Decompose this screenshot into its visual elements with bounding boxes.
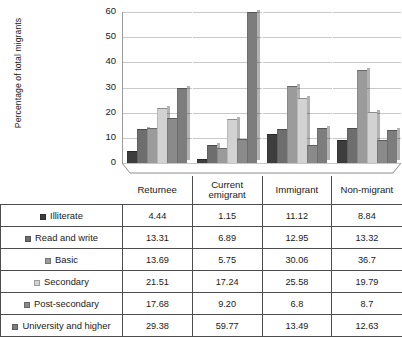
y-tick-label-60: 60 [82, 5, 116, 16]
y-tick-label-20: 20 [82, 106, 116, 117]
bar-chart: Percentage of total migrants 01020304050… [0, 0, 401, 198]
bar-group-current-emigrant [192, 12, 262, 163]
cell-value: 4.44 [123, 205, 193, 227]
legend-row-illiterate: Illiterate [1, 205, 123, 227]
table-row: Basic13.695.7530.0636.7 [1, 249, 402, 271]
cell-value: 12.95 [262, 227, 332, 249]
bar-secondary-current-emigrant [227, 119, 237, 163]
cell-value: 30.06 [262, 249, 332, 271]
bar-university-and-higher-non-migrant [387, 130, 397, 163]
bar-basic-current-emigrant [217, 148, 227, 163]
legend-label: Secondary [44, 276, 89, 287]
bar-secondary-returnee [157, 108, 167, 163]
bar-group-non-migrant [332, 12, 402, 163]
legend-swatch-icon [12, 324, 18, 330]
cell-value: 17.68 [123, 293, 193, 315]
legend-label: Basic [55, 254, 78, 265]
table-row: Illiterate4.441.1511.128.84 [1, 205, 402, 227]
cell-value: 11.12 [262, 205, 332, 227]
column-header-current-emigrant: Current emigrant [192, 176, 262, 205]
bar-university-and-higher-returnee [177, 88, 187, 163]
cell-value: 36.7 [332, 249, 402, 271]
bar-group-immigrant [262, 12, 332, 163]
y-tick-label-0: 0 [82, 156, 116, 167]
legend-label: Illiterate [50, 210, 83, 221]
legend-row-secondary: Secondary [1, 271, 123, 293]
cell-value: 59.77 [192, 315, 262, 337]
table-row: University and higher29.3859.7713.4912.6… [1, 315, 402, 337]
bar-read-and-write-immigrant [277, 129, 287, 163]
column-header-immigrant: Immigrant [262, 176, 332, 205]
bar-secondary-non-migrant [367, 112, 377, 163]
bar-read-and-write-current-emigrant [207, 145, 217, 163]
cell-value: 25.58 [262, 271, 332, 293]
legend-swatch-icon [45, 258, 51, 264]
table-row: Secondary21.5117.2425.5819.79 [1, 271, 402, 293]
column-header-returnee: Returnee [123, 176, 193, 205]
bar-post-secondary-immigrant [307, 145, 317, 163]
legend-swatch-icon [25, 236, 31, 242]
legend-row-post-secondary: Post-secondary [1, 293, 123, 315]
table-row: Read and write13.316.8912.9513.32 [1, 227, 402, 249]
cell-value: 17.24 [192, 271, 262, 293]
bar-groups [122, 12, 401, 163]
bar-basic-non-migrant [357, 70, 367, 163]
cell-value: 13.32 [332, 227, 402, 249]
legend-swatch-icon [24, 302, 30, 308]
data-table: ReturneeCurrent emigrantImmigrantNon-mig… [0, 176, 402, 337]
legend-swatch-icon [40, 214, 46, 220]
cell-value: 13.69 [123, 249, 193, 271]
column-header-non-migrant: Non-migrant [332, 176, 402, 205]
bar-basic-returnee [147, 128, 157, 163]
y-tick-label-50: 50 [82, 30, 116, 41]
cell-value: 13.49 [262, 315, 332, 337]
cell-value: 9.20 [192, 293, 262, 315]
legend-label: University and higher [22, 320, 110, 331]
table-header-row: ReturneeCurrent emigrantImmigrantNon-mig… [1, 176, 402, 205]
cell-value: 1.15 [192, 205, 262, 227]
y-tick-label-40: 40 [82, 55, 116, 66]
table-body: Illiterate4.441.1511.128.84Read and writ… [1, 205, 402, 337]
bar-secondary-immigrant [297, 98, 307, 163]
cell-value: 21.51 [123, 271, 193, 293]
table-corner-cell [1, 176, 123, 205]
cell-value: 29.38 [123, 315, 193, 337]
cell-value: 13.31 [123, 227, 193, 249]
data-table-region: ReturneeCurrent emigrantImmigrantNon-mig… [0, 176, 401, 337]
legend-label: Read and write [35, 232, 98, 243]
cell-value: 8.7 [332, 293, 402, 315]
bar-post-secondary-current-emigrant [237, 139, 247, 163]
cell-value: 8.84 [332, 205, 402, 227]
legend-swatch-icon [34, 280, 40, 286]
cell-value: 12.63 [332, 315, 402, 337]
bar-illiterate-immigrant [267, 134, 277, 163]
chart-floor-3d [122, 163, 401, 174]
plot-area: 0102030405060 [122, 12, 401, 163]
cell-value: 5.75 [192, 249, 262, 271]
y-tick-label-30: 30 [82, 81, 116, 92]
bar-basic-immigrant [287, 86, 297, 163]
y-tick-label-10: 10 [82, 131, 116, 142]
cell-value: 6.8 [262, 293, 332, 315]
legend-row-read-and-write: Read and write [1, 227, 123, 249]
y-axis-label: Percentage of total migrants [13, 0, 23, 153]
legend-row-university-and-higher: University and higher [1, 315, 123, 337]
bar-university-and-higher-current-emigrant [247, 12, 257, 163]
cell-value: 6.89 [192, 227, 262, 249]
bar-group-returnee [122, 12, 192, 163]
cell-value: 19.79 [332, 271, 402, 293]
bar-illiterate-non-migrant [337, 140, 347, 163]
bar-post-secondary-returnee [167, 118, 177, 163]
bar-university-and-higher-immigrant [317, 128, 327, 163]
table-row: Post-secondary17.689.206.88.7 [1, 293, 402, 315]
bar-read-and-write-returnee [137, 129, 147, 163]
bar-illiterate-returnee [127, 151, 137, 163]
legend-label: Post-secondary [34, 298, 99, 309]
bar-read-and-write-non-migrant [347, 128, 357, 163]
legend-row-basic: Basic [1, 249, 123, 271]
bar-post-secondary-non-migrant [377, 140, 387, 163]
